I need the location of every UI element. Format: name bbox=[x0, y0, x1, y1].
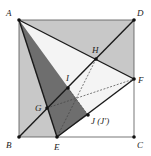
label-G: G bbox=[35, 103, 42, 113]
label-C: C bbox=[137, 140, 144, 150]
label-B: B bbox=[6, 140, 12, 150]
label-A: A bbox=[5, 8, 12, 18]
label-D: D bbox=[136, 8, 144, 18]
label-E: E bbox=[53, 142, 60, 152]
label-H: H bbox=[91, 45, 99, 55]
geometry-diagram: A D B C E F H I G J (J′) bbox=[0, 0, 151, 156]
label-F: F bbox=[137, 75, 144, 85]
label-J: J (J′) bbox=[91, 116, 109, 126]
